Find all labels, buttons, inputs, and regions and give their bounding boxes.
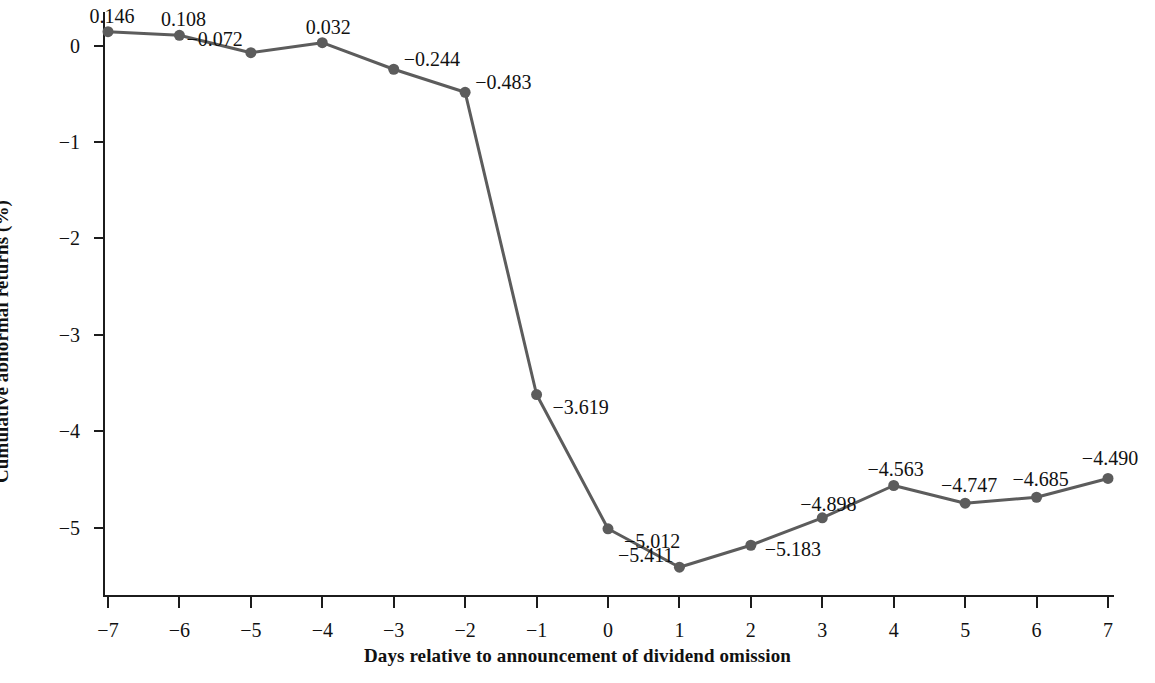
x-axis-tick bbox=[1036, 597, 1038, 608]
data-point-marker bbox=[388, 64, 399, 75]
data-point-marker bbox=[1103, 473, 1114, 484]
data-point-marker bbox=[1031, 492, 1042, 503]
x-axis-tick-label: 3 bbox=[817, 620, 827, 640]
data-point-label: −0.483 bbox=[475, 72, 531, 92]
y-axis-tick-label: −1 bbox=[59, 132, 80, 152]
data-point-marker bbox=[317, 37, 328, 48]
x-axis-tick bbox=[1107, 597, 1109, 608]
x-axis-tick-label: 2 bbox=[746, 620, 756, 640]
data-point-marker bbox=[531, 389, 542, 400]
x-axis-tick bbox=[464, 597, 466, 608]
x-axis-tick bbox=[821, 597, 823, 608]
data-point-label: 0.146 bbox=[90, 6, 135, 26]
x-axis-tick-label: −2 bbox=[455, 620, 476, 640]
y-axis-tick-label: −3 bbox=[59, 325, 80, 345]
data-point-label: −4.898 bbox=[800, 494, 856, 514]
y-axis-tick: −3 bbox=[94, 334, 103, 336]
x-axis-tick bbox=[893, 597, 895, 608]
y-axis-tick-label: 0 bbox=[70, 36, 80, 56]
y-axis-title-text: Cumulative abnormal returns (%) bbox=[0, 200, 13, 483]
data-point-marker bbox=[888, 480, 899, 491]
data-point-label: −0.244 bbox=[404, 49, 460, 69]
y-axis-tick-label: −4 bbox=[59, 421, 80, 441]
x-axis-tick bbox=[178, 597, 180, 608]
x-axis-tick-label: −7 bbox=[97, 620, 118, 640]
data-point-marker bbox=[674, 562, 685, 573]
x-axis-tick-label: 4 bbox=[889, 620, 899, 640]
x-axis-tick-label: −6 bbox=[169, 620, 190, 640]
x-axis-tick-label: −4 bbox=[312, 620, 333, 640]
x-axis-tick-label: 1 bbox=[674, 620, 684, 640]
x-axis-tick bbox=[750, 597, 752, 608]
x-axis-tick-label: −5 bbox=[240, 620, 261, 640]
y-axis-tick-label: −2 bbox=[59, 228, 80, 248]
data-point-label: 0.108 bbox=[161, 9, 206, 29]
y-axis-title: Cumulative abnormal returns (%) bbox=[0, 0, 40, 683]
x-axis-title: Days relative to announcement of dividen… bbox=[0, 645, 1155, 667]
data-point-marker bbox=[960, 498, 971, 509]
x-axis-tick bbox=[250, 597, 252, 608]
data-point-label: −0.072 bbox=[187, 29, 243, 49]
x-axis-tick bbox=[607, 597, 609, 608]
x-axis-tick-label: 5 bbox=[960, 620, 970, 640]
data-point-marker bbox=[745, 540, 756, 551]
x-axis-tick-label: −1 bbox=[526, 620, 547, 640]
data-point-marker bbox=[245, 47, 256, 58]
x-axis-tick-label: 0 bbox=[603, 620, 613, 640]
data-point-marker bbox=[174, 30, 185, 41]
x-axis-tick bbox=[678, 597, 680, 608]
y-axis-tick: −1 bbox=[94, 141, 103, 143]
data-point-label: −5.183 bbox=[765, 539, 821, 559]
data-point-label: −4.490 bbox=[1082, 448, 1138, 468]
x-axis-tick bbox=[536, 597, 538, 608]
data-point-label: 0.032 bbox=[306, 17, 351, 37]
x-axis-tick-label: 7 bbox=[1103, 620, 1113, 640]
y-axis-tick: −5 bbox=[94, 527, 103, 529]
data-point-label: −5.411 bbox=[618, 545, 674, 565]
x-axis-tick bbox=[393, 597, 395, 608]
series-line bbox=[103, 12, 1113, 597]
data-point-marker bbox=[103, 26, 114, 37]
y-axis-tick: 0 bbox=[94, 45, 103, 47]
y-axis-tick-label: −5 bbox=[59, 518, 80, 538]
x-axis-tick bbox=[321, 597, 323, 608]
x-axis-tick bbox=[107, 597, 109, 608]
x-axis-tick-label: −3 bbox=[383, 620, 404, 640]
x-axis-tick bbox=[964, 597, 966, 608]
y-axis-tick: −2 bbox=[94, 237, 103, 239]
plot-area: 0−1−2−3−4−5 −7−6−5−4−3−2−101234567 0.146… bbox=[103, 12, 1113, 597]
x-axis-title-text: Days relative to announcement of dividen… bbox=[364, 645, 791, 666]
data-point-marker bbox=[460, 87, 471, 98]
x-axis-tick-label: 6 bbox=[1032, 620, 1042, 640]
data-point-label: −4.747 bbox=[941, 475, 997, 495]
data-point-label: −3.619 bbox=[553, 397, 609, 417]
y-axis-tick: −4 bbox=[94, 430, 103, 432]
data-point-label: −4.563 bbox=[868, 459, 924, 479]
chart-figure: Cumulative abnormal returns (%) 0−1−2−3−… bbox=[0, 0, 1155, 683]
data-point-marker bbox=[603, 523, 614, 534]
data-point-label: −4.685 bbox=[1012, 469, 1068, 489]
